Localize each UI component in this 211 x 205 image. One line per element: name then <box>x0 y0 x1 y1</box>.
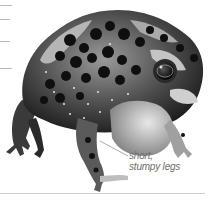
annotation-line-2: stumpy legs <box>129 161 180 172</box>
annotation-line-1: short, <box>129 150 180 161</box>
frog-image <box>0 0 211 205</box>
annotation-label: short, stumpy legs <box>129 150 180 172</box>
frog-illustration: short, stumpy legs <box>0 0 211 205</box>
